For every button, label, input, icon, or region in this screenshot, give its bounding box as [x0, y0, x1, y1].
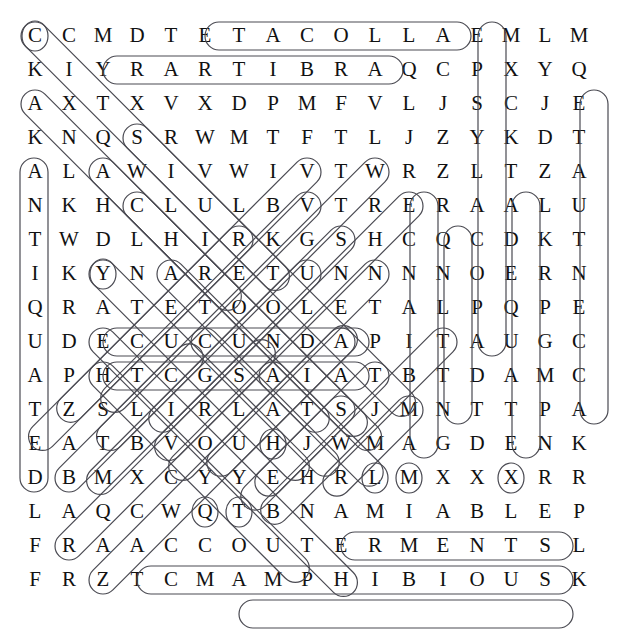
grid-cell-r12c2[interactable]: Z: [52, 392, 86, 426]
grid-cell-r15c14[interactable]: B: [460, 494, 494, 528]
grid-cell-r13c14[interactable]: D: [460, 426, 494, 460]
grid-cell-r13c9[interactable]: J: [290, 426, 324, 460]
grid-cell-r7c1[interactable]: T: [18, 222, 52, 256]
grid-cell-r17c11[interactable]: I: [358, 562, 392, 596]
grid-cell-r8c16[interactable]: R: [528, 256, 562, 290]
grid-cell-r8c1[interactable]: I: [18, 256, 52, 290]
grid-cell-r6c9[interactable]: V: [290, 188, 324, 222]
grid-cell-r1c2[interactable]: C: [52, 18, 86, 52]
grid-cell-r11c15[interactable]: A: [494, 358, 528, 392]
grid-cell-r9c14[interactable]: P: [460, 290, 494, 324]
grid-cell-r17c9[interactable]: P: [290, 562, 324, 596]
grid-cell-r13c2[interactable]: A: [52, 426, 86, 460]
grid-cell-r2c17[interactable]: Q: [562, 52, 596, 86]
grid-cell-r9c7[interactable]: O: [222, 290, 256, 324]
grid-cell-r8c9[interactable]: U: [290, 256, 324, 290]
grid-cell-r14c17[interactable]: R: [562, 460, 596, 494]
grid-cell-r7c12[interactable]: C: [392, 222, 426, 256]
grid-cell-r16c8[interactable]: U: [256, 528, 290, 562]
grid-cell-r9c17[interactable]: E: [562, 290, 596, 324]
grid-cell-r10c11[interactable]: P: [358, 324, 392, 358]
grid-cell-r4c8[interactable]: T: [256, 120, 290, 154]
grid-cell-r7c3[interactable]: D: [86, 222, 120, 256]
grid-cell-r6c6[interactable]: U: [188, 188, 222, 222]
grid-cell-r2c4[interactable]: R: [120, 52, 154, 86]
grid-cell-r11c9[interactable]: I: [290, 358, 324, 392]
grid-cell-r8c11[interactable]: N: [358, 256, 392, 290]
grid-cell-r2c2[interactable]: I: [52, 52, 86, 86]
grid-cell-r13c7[interactable]: U: [222, 426, 256, 460]
grid-cell-r7c8[interactable]: K: [256, 222, 290, 256]
grid-cell-r16c7[interactable]: O: [222, 528, 256, 562]
grid-cell-r5c6[interactable]: V: [188, 154, 222, 188]
grid-cell-r16c15[interactable]: T: [494, 528, 528, 562]
grid-cell-r14c7[interactable]: Y: [222, 460, 256, 494]
grid-cell-r13c17[interactable]: K: [562, 426, 596, 460]
grid-cell-r4c1[interactable]: K: [18, 120, 52, 154]
grid-cell-r9c11[interactable]: T: [358, 290, 392, 324]
grid-cell-r17c10[interactable]: H: [324, 562, 358, 596]
grid-cell-r1c9[interactable]: C: [290, 18, 324, 52]
grid-cell-r14c10[interactable]: R: [324, 460, 358, 494]
grid-cell-r11c14[interactable]: D: [460, 358, 494, 392]
grid-cell-r3c15[interactable]: C: [494, 86, 528, 120]
grid-cell-r6c3[interactable]: H: [86, 188, 120, 222]
grid-cell-r2c1[interactable]: K: [18, 52, 52, 86]
grid-cell-r14c4[interactable]: X: [120, 460, 154, 494]
grid-cell-r5c1[interactable]: A: [18, 154, 52, 188]
grid-cell-r8c14[interactable]: O: [460, 256, 494, 290]
grid-cell-r5c4[interactable]: W: [120, 154, 154, 188]
grid-cell-r13c11[interactable]: M: [358, 426, 392, 460]
grid-cell-r3c7[interactable]: D: [222, 86, 256, 120]
grid-cell-r13c1[interactable]: E: [18, 426, 52, 460]
grid-cell-r15c3[interactable]: Q: [86, 494, 120, 528]
grid-cell-r10c1[interactable]: U: [18, 324, 52, 358]
grid-cell-r3c16[interactable]: J: [528, 86, 562, 120]
grid-cell-r1c11[interactable]: L: [358, 18, 392, 52]
grid-cell-r12c1[interactable]: T: [18, 392, 52, 426]
grid-cell-r14c15[interactable]: X: [494, 460, 528, 494]
grid-cell-r3c10[interactable]: F: [324, 86, 358, 120]
grid-cell-r9c12[interactable]: A: [392, 290, 426, 324]
grid-cell-r9c16[interactable]: P: [528, 290, 562, 324]
grid-cell-r8c10[interactable]: N: [324, 256, 358, 290]
grid-cell-r2c16[interactable]: Y: [528, 52, 562, 86]
grid-cell-r7c15[interactable]: D: [494, 222, 528, 256]
grid-cell-r4c15[interactable]: K: [494, 120, 528, 154]
grid-cell-r9c13[interactable]: L: [426, 290, 460, 324]
grid-cell-r10c12[interactable]: I: [392, 324, 426, 358]
grid-cell-r15c8[interactable]: B: [256, 494, 290, 528]
grid-cell-r4c14[interactable]: Y: [460, 120, 494, 154]
grid-cell-r4c11[interactable]: L: [358, 120, 392, 154]
grid-cell-r10c16[interactable]: G: [528, 324, 562, 358]
grid-cell-r12c4[interactable]: L: [120, 392, 154, 426]
grid-cell-r16c11[interactable]: R: [358, 528, 392, 562]
grid-cell-r16c2[interactable]: R: [52, 528, 86, 562]
grid-cell-r16c5[interactable]: C: [154, 528, 188, 562]
grid-cell-r6c12[interactable]: E: [392, 188, 426, 222]
grid-cell-r17c1[interactable]: F: [18, 562, 52, 596]
grid-cell-r14c16[interactable]: R: [528, 460, 562, 494]
grid-cell-r10c14[interactable]: A: [460, 324, 494, 358]
grid-cell-r17c4[interactable]: T: [120, 562, 154, 596]
grid-cell-r15c5[interactable]: W: [154, 494, 188, 528]
grid-cell-r7c11[interactable]: H: [358, 222, 392, 256]
grid-cell-r7c13[interactable]: Q: [426, 222, 460, 256]
grid-cell-r9c10[interactable]: E: [324, 290, 358, 324]
grid-cell-r3c6[interactable]: X: [188, 86, 222, 120]
grid-cell-r6c16[interactable]: L: [528, 188, 562, 222]
grid-cell-r7c14[interactable]: C: [460, 222, 494, 256]
grid-cell-r6c13[interactable]: R: [426, 188, 460, 222]
grid-cell-r8c2[interactable]: K: [52, 256, 86, 290]
grid-cell-r17c3[interactable]: Z: [86, 562, 120, 596]
grid-cell-r12c16[interactable]: P: [528, 392, 562, 426]
grid-cell-r12c6[interactable]: R: [188, 392, 222, 426]
grid-cell-r13c15[interactable]: E: [494, 426, 528, 460]
grid-cell-r13c4[interactable]: B: [120, 426, 154, 460]
grid-cell-r7c4[interactable]: L: [120, 222, 154, 256]
grid-cell-r5c8[interactable]: I: [256, 154, 290, 188]
grid-cell-r1c10[interactable]: O: [324, 18, 358, 52]
grid-cell-r8c7[interactable]: E: [222, 256, 256, 290]
grid-cell-r14c13[interactable]: X: [426, 460, 460, 494]
grid-cell-r8c17[interactable]: N: [562, 256, 596, 290]
